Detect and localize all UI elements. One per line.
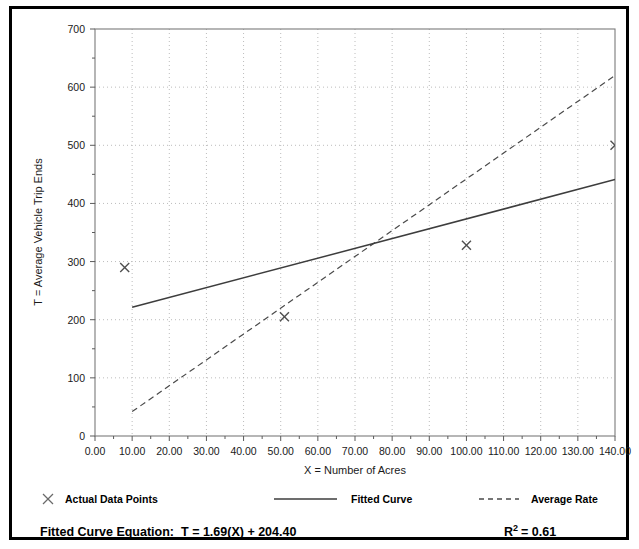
x-axis-tick-labels: 0.0010.0020.0030.0040.0050.0060.0070.008… bbox=[85, 445, 631, 457]
data-point-marker bbox=[462, 241, 471, 250]
x-tick-label: 60.00 bbox=[305, 445, 331, 457]
r-squared-annotation: R2= 0.61 bbox=[504, 523, 556, 539]
y-tick-label: 400 bbox=[67, 197, 85, 209]
data-point-marker bbox=[120, 263, 129, 272]
x-tick-label: 100.00 bbox=[450, 445, 482, 457]
legend: Actual Data Points Fitted Curve Average … bbox=[43, 493, 598, 505]
fitted-curve-equation: Fitted Curve Equation:T = 1.69(X) + 204.… bbox=[40, 525, 296, 539]
x-tick-label: 40.00 bbox=[230, 445, 256, 457]
legend-label-fitted-curve: Fitted Curve bbox=[351, 493, 412, 505]
y-axis-ticks bbox=[90, 29, 95, 436]
x-axis-title: X = Number of Acres bbox=[304, 464, 406, 476]
x-tick-label: 50.00 bbox=[268, 445, 294, 457]
legend-item-fitted-curve: Fitted Curve bbox=[274, 493, 412, 505]
footer-annotations: Fitted Curve Equation:T = 1.69(X) + 204.… bbox=[40, 523, 556, 539]
legend-item-average-rate: Average Rate bbox=[479, 493, 598, 505]
x-tick-label: 10.00 bbox=[119, 445, 145, 457]
y-axis-tick-labels: 0100200300400500600700 bbox=[67, 23, 85, 442]
x-axis-ticks bbox=[95, 436, 615, 441]
y-tick-label: 200 bbox=[67, 314, 85, 326]
x-tick-label: 140.00 bbox=[599, 445, 631, 457]
y-tick-label: 600 bbox=[67, 81, 85, 93]
y-tick-label: 100 bbox=[67, 372, 85, 384]
y-axis-title: T = Average Vehicle Trip Ends bbox=[32, 158, 44, 306]
series-fitted-curve-line bbox=[132, 180, 615, 308]
x-tick-label: 70.00 bbox=[342, 445, 368, 457]
x-tick-label: 110.00 bbox=[488, 445, 519, 457]
x-tick-label: 90.00 bbox=[416, 445, 442, 457]
equation-label: Fitted Curve Equation: bbox=[40, 525, 174, 539]
legend-label-average-rate: Average Rate bbox=[531, 493, 598, 505]
series-actual-data-points bbox=[120, 141, 619, 322]
legend-item-actual-data-points: Actual Data Points bbox=[43, 493, 158, 505]
legend-x-marker-icon bbox=[43, 494, 53, 504]
x-tick-label: 80.00 bbox=[379, 445, 405, 457]
y-tick-label: 700 bbox=[67, 23, 85, 35]
plot-area-box bbox=[95, 29, 615, 436]
r-squared-exponent: 2 bbox=[513, 523, 518, 533]
x-tick-label: 130.00 bbox=[562, 445, 594, 457]
y-tick-label: 300 bbox=[67, 256, 85, 268]
grid-horizontal bbox=[95, 87, 615, 378]
x-tick-label: 0.00 bbox=[85, 445, 106, 457]
r-squared-value: = 0.61 bbox=[521, 525, 556, 539]
chart-figure: 0.0010.0020.0030.0040.0050.0060.0070.008… bbox=[0, 0, 639, 549]
grid-vertical bbox=[132, 29, 578, 436]
data-point-marker bbox=[280, 312, 289, 321]
x-tick-label: 30.00 bbox=[193, 445, 219, 457]
y-tick-label: 500 bbox=[67, 139, 85, 151]
y-tick-label: 0 bbox=[79, 430, 85, 442]
plot-container: 0.0010.0020.0030.0040.0050.0060.0070.008… bbox=[0, 0, 639, 549]
x-tick-label: 20.00 bbox=[156, 445, 182, 457]
legend-label-actual-data-points: Actual Data Points bbox=[65, 493, 158, 505]
r-squared-base: R bbox=[504, 525, 513, 539]
chart-svg: 0.0010.0020.0030.0040.0050.0060.0070.008… bbox=[0, 0, 639, 549]
x-tick-label: 120.00 bbox=[525, 445, 557, 457]
equation-value: T = 1.69(X) + 204.40 bbox=[181, 525, 296, 539]
